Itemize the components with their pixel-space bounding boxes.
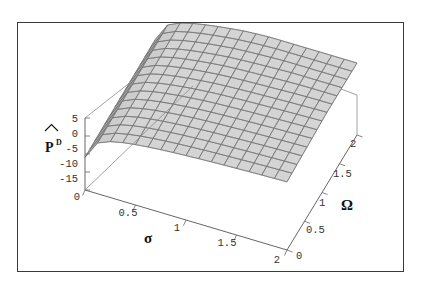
vertical-tick-4: -15 <box>59 173 78 185</box>
axis-tick <box>322 193 328 195</box>
omega-tick-4: 2 <box>350 138 356 150</box>
surface-plot: 5 0 -5 -10 -15 0 0.5 1 1.5 2 0 0.5 1 1.5… <box>0 0 421 294</box>
vertical-tick-1: 0 <box>72 128 78 140</box>
vertical-tick-2: -5 <box>65 143 78 155</box>
vertical-axis-title-accent <box>45 125 58 132</box>
omega-tick-2: 1 <box>319 197 325 209</box>
vertical-tick-labels: 5 0 -5 -10 -15 <box>59 113 78 185</box>
sigma-tick-3: 1.5 <box>218 237 237 249</box>
sigma-tick-4: 2 <box>274 254 280 266</box>
sigma-tick-labels: 0 0.5 1 1.5 2 <box>74 191 280 266</box>
vertical-axis-title: P D <box>45 125 62 156</box>
vertical-axis-title-superscript: D <box>56 138 62 147</box>
sigma-axis-title: σ <box>144 230 153 246</box>
axis-tick <box>340 164 346 166</box>
omega-tick-3: 1.5 <box>333 168 352 180</box>
omega-tick-1: 0.5 <box>306 224 325 236</box>
axis-tick <box>285 250 288 256</box>
omega-axis-title: Ω <box>341 197 353 213</box>
sigma-tick-2: 1 <box>174 222 180 234</box>
sigma-axis-ticks <box>83 190 288 256</box>
figure-root: 5 0 -5 -10 -15 0 0.5 1 1.5 2 0 0.5 1 1.5… <box>0 0 421 294</box>
sigma-tick-1: 0.5 <box>119 207 138 219</box>
vertical-axis-ticks <box>85 118 90 190</box>
axis-tick <box>305 221 311 223</box>
axis-tick <box>287 250 293 252</box>
vertical-tick-3: -10 <box>59 158 78 170</box>
surface-mesh <box>85 23 357 182</box>
sigma-tick-0: 0 <box>74 191 80 203</box>
axis-tick <box>83 190 86 196</box>
axis-tick <box>357 135 363 137</box>
vertical-axis-title-base: P <box>45 140 54 155</box>
axis-tick <box>184 220 187 226</box>
vertical-tick-0: 5 <box>72 113 78 125</box>
omega-tick-0: 0 <box>296 250 302 262</box>
